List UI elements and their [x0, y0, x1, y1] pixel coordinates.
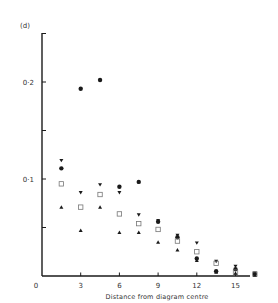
- series-triangle-down-filled: [59, 159, 257, 275]
- triangle-down-marker: [137, 213, 141, 216]
- triangle-down-marker: [59, 159, 63, 162]
- square-marker: [98, 192, 102, 196]
- x-tick-label: 12: [192, 282, 201, 290]
- triangle-up-marker: [59, 205, 63, 208]
- series-square-open: [59, 182, 257, 277]
- triangle-down-marker: [117, 191, 121, 194]
- y-tick-label: 0·1: [23, 176, 34, 184]
- x-tick-label: 15: [231, 282, 240, 290]
- circle-marker: [59, 166, 63, 170]
- triangle-up-marker: [98, 205, 102, 208]
- y-tick-label: 0·2: [23, 79, 34, 87]
- square-marker: [195, 250, 199, 254]
- square-marker: [137, 221, 141, 225]
- panel-label: (d): [20, 22, 30, 30]
- axis-ticks: 0·10·203691215: [23, 34, 240, 291]
- triangle-up-marker: [117, 231, 121, 234]
- square-marker: [156, 227, 160, 231]
- triangle-down-marker: [79, 191, 83, 194]
- axes: [42, 33, 250, 276]
- data-points: [59, 78, 257, 277]
- triangle-down-marker: [195, 241, 199, 244]
- square-marker: [79, 205, 83, 209]
- circle-marker: [137, 180, 141, 184]
- series-circle-filled: [59, 78, 257, 276]
- x-axis-title: Distance from diagram centre: [105, 293, 208, 301]
- square-marker: [175, 239, 179, 243]
- triangle-up-marker: [156, 240, 160, 243]
- triangle-up-marker: [137, 231, 141, 234]
- circle-marker: [79, 87, 83, 91]
- triangle-down-marker: [98, 183, 102, 186]
- circle-marker: [117, 185, 121, 189]
- x-tick-label: 3: [78, 282, 82, 290]
- square-marker: [117, 212, 121, 216]
- triangle-up-marker: [175, 248, 179, 251]
- x-tick-label: 6: [117, 282, 122, 290]
- scatter-chart: (d) 0·10·203691215 Distance from diagram…: [0, 0, 278, 303]
- series-triangle-up-filled: [59, 205, 257, 276]
- triangle-up-marker: [79, 229, 83, 232]
- square-marker: [59, 182, 63, 186]
- x-tick-label: 0: [34, 282, 38, 290]
- triangle-up-marker: [234, 271, 238, 274]
- x-tick-label: 9: [156, 282, 160, 290]
- circle-marker: [98, 78, 102, 82]
